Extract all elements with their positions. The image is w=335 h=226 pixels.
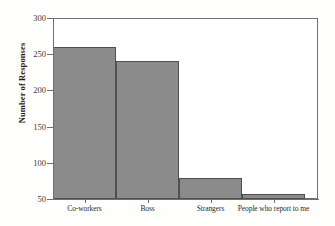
bar-boss bbox=[116, 61, 179, 199]
y-axis-line bbox=[53, 18, 54, 200]
bar-strangers bbox=[179, 178, 242, 199]
y-tick-mark bbox=[47, 163, 53, 164]
y-axis-title: Number of Responses bbox=[17, 13, 27, 153]
bar-co-workers bbox=[53, 47, 116, 199]
y-tick-mark bbox=[47, 90, 53, 91]
x-tick-mark bbox=[148, 199, 149, 203]
x-tick-mark bbox=[274, 199, 275, 203]
y-tick-label: 50 bbox=[0, 194, 46, 204]
y-tick-mark bbox=[47, 127, 53, 128]
x-axis-line bbox=[53, 199, 319, 200]
y-tick-label: 100 bbox=[0, 158, 46, 168]
x-tick-mark bbox=[85, 199, 86, 203]
y-tick-mark bbox=[47, 18, 53, 19]
y-tick-mark bbox=[47, 54, 53, 55]
y-tick-mark bbox=[47, 199, 53, 200]
x-tick-mark bbox=[211, 199, 212, 203]
bar-chart: 50100150200250300 Co-workersBossStranger… bbox=[0, 0, 335, 226]
x-tick-label: People who report to me bbox=[214, 204, 334, 213]
bars-layer bbox=[53, 18, 318, 199]
